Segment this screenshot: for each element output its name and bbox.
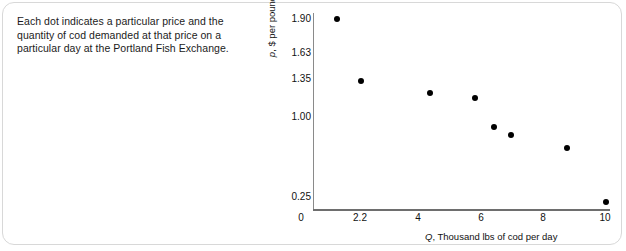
figure-card: Each dot indicates a particular price an… (2, 2, 622, 245)
data-point (491, 124, 497, 130)
plot-area (313, 13, 609, 209)
data-point (472, 95, 478, 101)
x-axis-line (313, 209, 610, 211)
data-point (508, 132, 514, 138)
data-point (564, 145, 570, 151)
y-tick-label: 1.35 (277, 73, 311, 84)
x-tick-label: 8 (523, 212, 563, 223)
x-tick-label: 2.2 (340, 212, 380, 223)
y-tick-label: 0.25 (277, 191, 311, 202)
x-axis-label-text: , Thousand lbs of cod per day (432, 231, 557, 242)
y-tick-label: 1.63 (277, 47, 311, 58)
figure-caption: Each dot indicates a particular price an… (17, 15, 243, 56)
y-tick-label: 1.00 (277, 111, 311, 122)
x-tick-label: 6 (461, 212, 501, 223)
scatter-chart: p, $ per pound 1.901.631.351.000.25 02.2… (247, 3, 626, 251)
x-axis-label: Q, Thousand lbs of cod per day (425, 231, 557, 242)
x-axis-tick-labels: 02.246810 (247, 212, 626, 228)
x-tick-label: 10 (585, 212, 625, 223)
x-tick-label: 4 (398, 212, 438, 223)
data-point (427, 90, 433, 96)
x-tick-label: 0 (281, 212, 321, 223)
data-point (603, 199, 609, 205)
y-tick-label: 1.90 (277, 13, 311, 24)
data-point (334, 16, 340, 22)
data-point (358, 78, 364, 84)
